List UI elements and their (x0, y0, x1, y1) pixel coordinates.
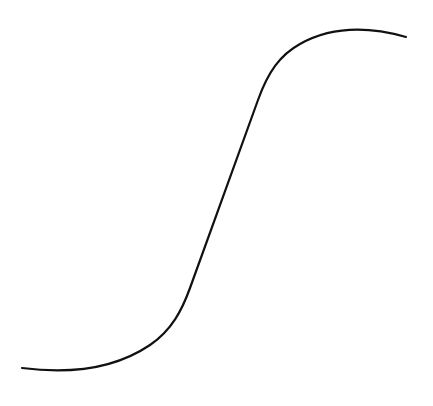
background (0, 0, 433, 406)
s-curve-diagram (0, 0, 433, 406)
